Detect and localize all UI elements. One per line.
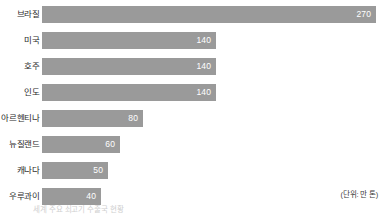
bar-value-argentina: 80 <box>128 110 138 127</box>
chart-row: 호주 140 <box>0 58 381 75</box>
category-label-uruguay: 우루과이 <box>0 188 42 205</box>
category-label-australia: 호주 <box>0 58 42 75</box>
chart-row: 미국 140 <box>0 32 381 49</box>
chart-row: 인도 140 <box>0 84 381 101</box>
chart-row: 캐나다 50 <box>0 162 381 179</box>
bar-track: 40 <box>42 188 381 205</box>
bar-usa: 140 <box>42 32 216 49</box>
bar-newzealand: 60 <box>42 136 120 153</box>
category-label-india: 인도 <box>0 84 42 101</box>
bar-brazil: 270 <box>42 6 376 23</box>
bar-india: 140 <box>42 84 216 101</box>
horizontal-bar-chart: 브라질 270 미국 140 호주 140 인도 140 <box>0 0 381 214</box>
bar-track: 270 <box>42 6 381 23</box>
cropped-caption: 세계 주요 쇠고기 수출국 현황 <box>33 205 223 214</box>
bar-value-newzealand: 60 <box>105 136 115 153</box>
bar-track: 80 <box>42 110 381 127</box>
bar-track: 140 <box>42 58 381 75</box>
bar-argentina: 80 <box>42 110 143 127</box>
bar-australia: 140 <box>42 58 216 75</box>
chart-row: 우루과이 40 <box>0 188 381 205</box>
unit-note: (단위: 만 톤) <box>341 188 378 199</box>
chart-row: 브라질 270 <box>0 6 381 23</box>
bar-track: 60 <box>42 136 381 153</box>
bar-value-india: 140 <box>197 84 211 101</box>
category-label-newzealand: 뉴질랜드 <box>0 136 42 153</box>
bar-value-usa: 140 <box>197 32 211 49</box>
bar-uruguay: 40 <box>42 188 101 205</box>
bar-track: 140 <box>42 84 381 101</box>
category-label-brazil: 브라질 <box>0 6 42 23</box>
cropped-caption-text: 세계 주요 쇠고기 수출국 현황 <box>33 205 223 214</box>
bar-canada: 50 <box>42 162 108 179</box>
bar-value-canada: 50 <box>93 162 103 179</box>
bar-track: 140 <box>42 32 381 49</box>
category-label-usa: 미국 <box>0 32 42 49</box>
category-label-canada: 캐나다 <box>0 162 42 179</box>
bar-value-uruguay: 40 <box>86 188 96 205</box>
chart-row: 아르헨티나 80 <box>0 110 381 127</box>
bar-value-brazil: 270 <box>357 6 371 23</box>
chart-row: 뉴질랜드 60 <box>0 136 381 153</box>
category-label-argentina: 아르헨티나 <box>0 110 42 127</box>
bar-value-australia: 140 <box>197 58 211 75</box>
bar-track: 50 <box>42 162 381 179</box>
